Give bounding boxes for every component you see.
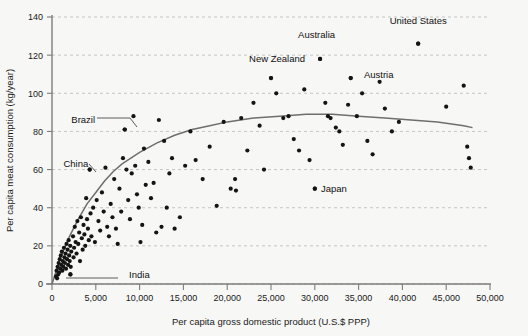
data-point bbox=[75, 219, 79, 223]
y-tick-label-120: 120 bbox=[28, 51, 43, 61]
annotation-japan: Japan bbox=[321, 183, 347, 194]
annotation-china: China bbox=[63, 158, 89, 169]
data-point bbox=[63, 251, 67, 255]
data-point bbox=[91, 206, 95, 210]
data-point bbox=[62, 246, 66, 250]
data-point bbox=[117, 187, 121, 191]
data-point bbox=[128, 217, 132, 221]
data-point bbox=[159, 225, 163, 229]
data-point bbox=[131, 114, 135, 118]
annotation-new-zealand: New Zealand bbox=[249, 53, 305, 64]
y-tick-label-80: 80 bbox=[33, 127, 43, 137]
leader-brazil bbox=[97, 118, 137, 127]
data-point bbox=[173, 227, 177, 231]
data-point bbox=[98, 229, 102, 233]
data-point bbox=[86, 227, 90, 231]
data-point bbox=[64, 242, 68, 246]
data-point bbox=[67, 238, 71, 242]
y-axis-title: Per capita meat consumption (kg/year) bbox=[4, 69, 15, 232]
y-tick-label-140: 140 bbox=[28, 12, 43, 22]
data-point bbox=[79, 215, 83, 219]
data-point bbox=[178, 215, 182, 219]
data-point bbox=[371, 152, 375, 156]
annotation-australia: Australia bbox=[298, 29, 336, 40]
data-point bbox=[251, 101, 255, 105]
annotation-brazil: Brazil bbox=[71, 114, 95, 125]
data-point bbox=[208, 145, 212, 149]
data-point bbox=[68, 244, 72, 248]
data-point bbox=[126, 198, 130, 202]
data-point bbox=[124, 167, 128, 171]
data-point bbox=[233, 177, 237, 181]
data-point bbox=[307, 158, 311, 162]
data-point bbox=[78, 259, 82, 263]
data-point bbox=[119, 209, 123, 213]
data-point bbox=[152, 181, 156, 185]
data-point bbox=[262, 167, 266, 171]
data-point bbox=[302, 87, 306, 91]
x-tick-label-50000: 50,000 bbox=[476, 293, 504, 303]
data-point bbox=[138, 240, 142, 244]
data-point bbox=[323, 101, 327, 105]
data-point-new-zealand bbox=[269, 76, 273, 80]
data-point bbox=[378, 80, 382, 84]
data-point bbox=[109, 202, 113, 206]
x-tick-label-35000: 35,000 bbox=[345, 293, 373, 303]
data-point bbox=[239, 116, 243, 120]
data-point bbox=[140, 223, 144, 227]
data-point bbox=[341, 143, 345, 147]
data-point bbox=[74, 251, 78, 255]
data-point bbox=[337, 129, 341, 133]
data-point bbox=[73, 225, 77, 229]
data-point bbox=[355, 114, 359, 118]
data-point bbox=[297, 148, 301, 152]
data-point bbox=[67, 253, 71, 257]
data-point bbox=[112, 177, 116, 181]
scatter-plot-figure: United StatesAustraliaNew ZealandAustria… bbox=[0, 0, 528, 336]
x-tick-label-30000: 30,000 bbox=[301, 293, 329, 303]
data-point bbox=[194, 158, 198, 162]
data-point bbox=[167, 171, 171, 175]
y-tick-label-0: 0 bbox=[38, 279, 43, 289]
x-axis-title: Per capita gross domestic product (U.S.$… bbox=[172, 316, 370, 327]
data-point bbox=[469, 166, 473, 170]
data-point bbox=[71, 234, 75, 238]
data-point bbox=[83, 244, 87, 248]
x-tick-label-40000: 40,000 bbox=[389, 293, 417, 303]
data-point bbox=[157, 118, 161, 122]
data-point-australia bbox=[318, 57, 322, 61]
data-point bbox=[444, 105, 448, 109]
data-point bbox=[80, 236, 84, 240]
data-point bbox=[114, 227, 118, 231]
data-point-india bbox=[68, 272, 72, 276]
data-point bbox=[133, 164, 137, 168]
annotation-austria: Austria bbox=[364, 69, 394, 80]
data-point bbox=[116, 242, 120, 246]
regression-curve bbox=[52, 114, 472, 284]
data-point bbox=[87, 238, 91, 242]
data-point-austria bbox=[349, 76, 353, 80]
data-point bbox=[234, 188, 238, 192]
data-point bbox=[135, 192, 139, 196]
data-point bbox=[82, 232, 86, 236]
data-point bbox=[81, 223, 85, 227]
data-point bbox=[183, 164, 187, 168]
data-point bbox=[130, 171, 134, 175]
data-point bbox=[100, 190, 104, 194]
data-point bbox=[188, 129, 192, 133]
data-point bbox=[69, 265, 73, 269]
data-point bbox=[383, 106, 387, 110]
data-point bbox=[59, 253, 63, 257]
data-point bbox=[292, 137, 296, 141]
data-point bbox=[71, 255, 75, 259]
data-point bbox=[93, 240, 97, 244]
data-point bbox=[274, 91, 278, 95]
x-tick-label-5000: 5,000 bbox=[85, 293, 108, 303]
data-point bbox=[165, 206, 169, 210]
data-point bbox=[55, 276, 59, 280]
data-point bbox=[69, 249, 73, 253]
data-point bbox=[84, 196, 88, 200]
x-tick-label-10000: 10,000 bbox=[126, 293, 154, 303]
data-point bbox=[68, 259, 72, 263]
data-point bbox=[102, 209, 106, 213]
